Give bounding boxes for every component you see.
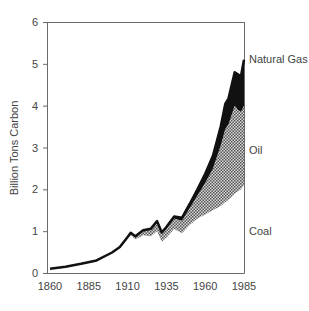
oil-area xyxy=(50,106,244,269)
y-tick-label: 0 xyxy=(32,267,38,279)
y-tick-label: 3 xyxy=(32,142,38,154)
y-axis-label: Billion Tons Carbon xyxy=(8,101,20,196)
chart: 0123456 186018851910193519601985 Billion… xyxy=(0,0,309,311)
x-tick-label: 1985 xyxy=(232,280,256,292)
y-tick-label: 1 xyxy=(32,225,38,237)
y-tick-label: 4 xyxy=(32,100,38,112)
x-tick-label: 1885 xyxy=(77,280,101,292)
x-tick-label: 1960 xyxy=(193,280,217,292)
x-tick-label: 1860 xyxy=(38,280,62,292)
x-axis-ticks: 186018851910193519601985 xyxy=(38,280,256,292)
x-tick-label: 1935 xyxy=(154,280,178,292)
y-axis-ticks: 0123456 xyxy=(32,16,48,279)
x-tick-label: 1910 xyxy=(115,280,139,292)
y-tick-label: 2 xyxy=(32,183,38,195)
label-oil: Oil xyxy=(249,144,262,156)
stacked-areas xyxy=(50,60,244,269)
y-tick-label: 6 xyxy=(32,16,38,28)
label-coal: Coal xyxy=(249,225,272,237)
y-tick-label: 5 xyxy=(32,58,38,70)
label-natural-gas: Natural Gas xyxy=(249,53,308,65)
